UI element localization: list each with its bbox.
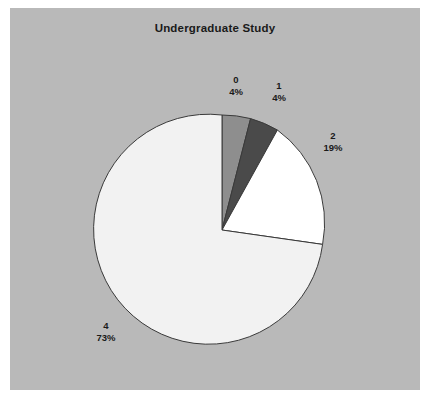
pie-label-4: 4 73% bbox=[83, 320, 129, 344]
pie-label-0: 0 4% bbox=[216, 74, 256, 98]
pie-label-1-category: 1 bbox=[259, 80, 299, 92]
chart-container: Undergraduate Study 0 4% 1 4% 2 19% 4 7 bbox=[0, 0, 430, 404]
chart-panel: Undergraduate Study 0 4% 1 4% 2 19% 4 7 bbox=[10, 8, 420, 390]
pie-label-0-category: 0 bbox=[216, 74, 256, 86]
pie-label-2-percent: 19% bbox=[313, 142, 353, 154]
pie-chart-graphic bbox=[10, 8, 420, 390]
pie-label-2: 2 19% bbox=[313, 130, 353, 154]
pie-label-1-percent: 4% bbox=[259, 92, 299, 104]
pie-label-0-percent: 4% bbox=[216, 86, 256, 98]
pie-label-1: 1 4% bbox=[259, 80, 299, 104]
pie-label-4-category: 4 bbox=[83, 320, 129, 332]
pie-label-2-category: 2 bbox=[313, 130, 353, 142]
pie-label-4-percent: 73% bbox=[83, 332, 129, 344]
